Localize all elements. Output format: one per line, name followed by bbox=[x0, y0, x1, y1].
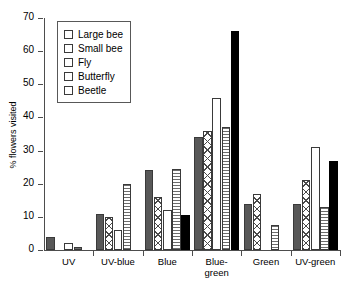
x-axis-label-uv-green: UV-green bbox=[291, 256, 340, 267]
bar-blue-green-fly bbox=[212, 98, 221, 250]
legend-swatch-icon bbox=[64, 58, 73, 67]
legend-item-label: Beetle bbox=[78, 85, 106, 96]
bar-uv-blue-fly bbox=[114, 230, 123, 250]
bar-blue-beetle bbox=[181, 215, 190, 250]
bar-uv-green-large-bee bbox=[293, 204, 302, 250]
bar-uv-blue-large-bee bbox=[96, 214, 105, 250]
bar-green-large-bee bbox=[244, 204, 253, 250]
bar-uv-green-fly bbox=[311, 147, 320, 250]
x-axis-separator bbox=[143, 251, 144, 256]
x-axis-label-uv-blue: UV-blue bbox=[93, 256, 142, 267]
bar-green-butterfly bbox=[271, 225, 280, 250]
bar-blue-butterfly bbox=[172, 169, 181, 250]
x-axis-label-blue-green: Blue-green bbox=[192, 256, 241, 278]
y-axis-tick-label: 70 bbox=[0, 11, 34, 22]
x-axis-separator bbox=[93, 251, 94, 256]
y-axis-tick-mark bbox=[38, 250, 43, 251]
y-axis-tick-label: 0 bbox=[0, 243, 34, 254]
x-axis-separator bbox=[192, 251, 193, 256]
legend-item-fly: Fly bbox=[64, 55, 123, 69]
bar-blue-fly bbox=[163, 210, 172, 250]
x-axis-separator bbox=[241, 251, 242, 256]
y-axis-tick-mark bbox=[38, 18, 43, 19]
bar-group-green bbox=[241, 18, 290, 250]
x-axis-separator bbox=[340, 251, 341, 256]
legend-item-label: Small bee bbox=[78, 43, 122, 54]
bar-uv-blue-small-bee bbox=[105, 217, 114, 250]
y-axis-tick-label: 60 bbox=[0, 44, 34, 55]
y-axis-tick-label: 50 bbox=[0, 77, 34, 88]
y-axis-tick-mark bbox=[38, 217, 43, 218]
bar-blue-large-bee bbox=[145, 170, 154, 250]
bar-group-blue bbox=[143, 18, 192, 250]
legend-swatch-icon bbox=[64, 44, 73, 53]
legend-swatch-icon bbox=[64, 72, 73, 81]
legend-item-butterfly: Butterfly bbox=[64, 69, 123, 83]
bar-uv-butterfly bbox=[74, 247, 83, 250]
y-axis-tick-label: 10 bbox=[0, 210, 34, 221]
chart-legend: Large beeSmall beeFlyButterflyBeetle bbox=[57, 21, 131, 103]
bar-group-uv-green bbox=[291, 18, 340, 250]
y-axis-tick-label: 40 bbox=[0, 110, 34, 121]
bar-blue-green-small-bee bbox=[203, 131, 212, 250]
y-axis-tick-mark bbox=[38, 151, 43, 152]
legend-swatch-icon bbox=[64, 30, 73, 39]
legend-item-beetle: Beetle bbox=[64, 83, 123, 97]
bar-uv-green-beetle bbox=[329, 161, 338, 250]
x-axis-separator bbox=[291, 251, 292, 256]
bar-uv-large-bee bbox=[46, 237, 55, 250]
bar-chart: % flowers visited 010203040506070 UVUV-b… bbox=[0, 0, 351, 292]
y-axis-tick-label: 30 bbox=[0, 144, 34, 155]
x-axis-label-green: Green bbox=[241, 256, 290, 267]
y-axis-tick-mark bbox=[38, 184, 43, 185]
bar-blue-green-beetle bbox=[231, 31, 240, 250]
y-axis-tick-mark bbox=[38, 51, 43, 52]
bar-uv-fly bbox=[64, 243, 73, 250]
legend-item-small-bee: Small bee bbox=[64, 41, 123, 55]
legend-item-large-bee: Large bee bbox=[64, 27, 123, 41]
x-axis-label-uv: UV bbox=[44, 256, 93, 267]
y-axis-tick-mark bbox=[38, 117, 43, 118]
legend-item-label: Large bee bbox=[78, 29, 123, 40]
bar-uv-green-small-bee bbox=[302, 180, 311, 250]
bar-green-small-bee bbox=[253, 194, 262, 250]
bar-blue-green-large-bee bbox=[194, 137, 203, 250]
legend-item-label: Butterfly bbox=[78, 71, 115, 82]
bar-blue-small-bee bbox=[154, 197, 163, 250]
bar-uv-green-butterfly bbox=[320, 207, 329, 250]
bar-blue-green-butterfly bbox=[222, 127, 231, 250]
x-axis-label-blue: Blue bbox=[143, 256, 192, 267]
legend-item-label: Fly bbox=[78, 57, 91, 68]
y-axis-tick-mark bbox=[38, 84, 43, 85]
y-axis-tick-label: 20 bbox=[0, 177, 34, 188]
legend-swatch-icon bbox=[64, 86, 73, 95]
bar-group-blue-green bbox=[192, 18, 241, 250]
bar-uv-blue-butterfly bbox=[123, 184, 132, 250]
